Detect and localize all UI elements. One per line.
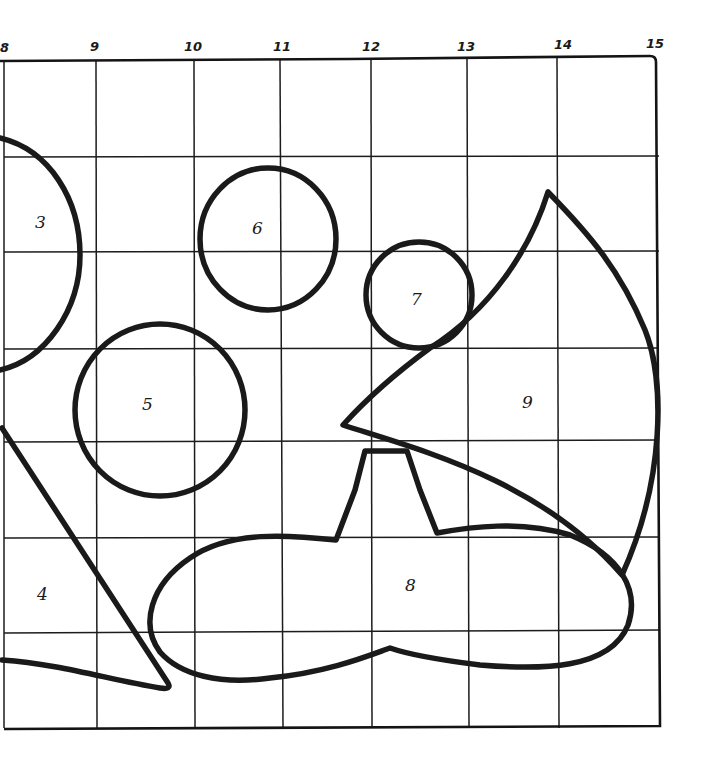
grid-vline [280,60,283,728]
shape-3: 3 [0,138,80,370]
shape-3-outline [0,138,80,370]
column-label-14: 14 [554,37,572,52]
grid-vline [96,60,97,728]
shape-6: 6 [200,168,336,310]
shape-4-outline [2,428,169,688]
column-label-9: 9 [90,39,99,54]
shape-6-outline [200,168,336,310]
shape-6-label: 6 [252,218,263,238]
grid-vline [557,57,559,728]
grid [0,56,660,729]
grid-vline [194,60,195,728]
shape-4-label: 4 [36,584,48,604]
grid-hline [4,440,659,442]
column-label-11: 11 [273,39,291,54]
shape-7-label: 7 [411,289,422,309]
column-label-15: 15 [646,36,664,51]
shape-4: 4 [2,428,169,688]
grid-hline [4,630,660,633]
shape-8-label: 8 [405,575,416,595]
shape-3-label: 3 [35,212,46,232]
shape-5-label: 5 [142,394,153,414]
shape-5: 5 [75,324,245,496]
grid-hline [4,156,659,157]
grid-vline [467,57,469,728]
column-label-10: 10 [184,39,202,54]
shape-9-label: 9 [522,392,533,412]
column-labels: 8 9 10 11 12 13 14 15 [0,36,664,55]
grid-diagram: 8 9 10 11 12 13 14 15 3 4 [0,0,703,762]
column-label-13: 13 [457,39,475,54]
column-label-12: 12 [362,39,380,54]
shape-5-outline [75,324,245,496]
grid-hline [4,251,659,252]
column-label-8: 8 [0,40,9,55]
